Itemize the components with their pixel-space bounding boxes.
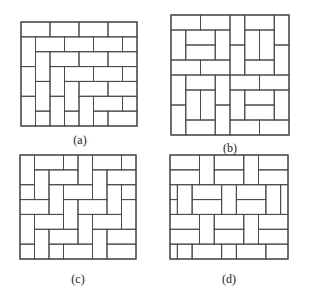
brick [20, 155, 35, 185]
brick [170, 155, 200, 170]
brick [78, 214, 93, 244]
brick [245, 105, 275, 120]
brick [108, 22, 137, 37]
brick [36, 52, 51, 82]
brick [170, 200, 177, 215]
brick [79, 52, 108, 67]
brick [245, 15, 275, 30]
panel-border [170, 155, 288, 259]
brick [93, 214, 122, 229]
brick [49, 185, 64, 215]
brick [21, 22, 50, 37]
brick [49, 170, 78, 185]
brick [94, 67, 123, 82]
brick [36, 111, 51, 126]
brick [93, 229, 108, 259]
brick [236, 200, 266, 215]
brick [122, 155, 137, 170]
panel-label-c: (c) [58, 272, 98, 287]
brick [20, 200, 49, 215]
brick [108, 81, 137, 96]
brick [79, 22, 108, 37]
brick [274, 90, 289, 120]
brick [122, 185, 137, 200]
brick [260, 120, 290, 135]
brick [186, 30, 216, 45]
panel-label-a: (a) [60, 133, 100, 148]
brick [171, 105, 186, 135]
brick [35, 170, 50, 200]
brick [214, 214, 244, 229]
brick [192, 185, 222, 200]
brick [281, 185, 288, 215]
brick [93, 170, 108, 200]
brick [123, 67, 138, 82]
brick [274, 15, 289, 45]
brick [49, 244, 64, 259]
brick [107, 185, 122, 215]
brick [107, 229, 136, 244]
brick [94, 111, 109, 126]
brick [108, 111, 137, 126]
brick [230, 90, 245, 120]
brick [222, 244, 237, 259]
brick [171, 75, 186, 105]
brick [230, 120, 260, 135]
brick [260, 75, 290, 90]
brick [170, 244, 177, 259]
brick [266, 244, 288, 259]
brick [244, 214, 259, 244]
panel-label-d: (d) [209, 272, 249, 287]
brick [214, 229, 244, 244]
brick [260, 30, 275, 60]
brick [214, 155, 244, 170]
brick [245, 60, 275, 75]
brick [244, 155, 259, 185]
brick [171, 15, 201, 30]
brick [21, 37, 36, 67]
brick [186, 45, 216, 60]
brick [79, 81, 108, 96]
brick-panel-c [20, 155, 136, 259]
brick [236, 185, 266, 200]
brick [79, 96, 94, 126]
brick [200, 155, 215, 185]
brick-panel-b [171, 15, 289, 135]
brick [36, 81, 51, 111]
brick [186, 90, 201, 120]
brick [266, 185, 281, 215]
brick [65, 67, 94, 82]
brick [215, 75, 230, 105]
brick [215, 30, 230, 60]
brick [122, 200, 137, 230]
brick [21, 67, 36, 97]
brick [65, 37, 94, 52]
brick [201, 15, 231, 30]
brick [50, 96, 65, 126]
brick [259, 155, 289, 170]
brick [78, 155, 93, 185]
brick [192, 244, 222, 259]
brick [35, 214, 64, 229]
brick [259, 214, 289, 229]
brick [94, 37, 123, 52]
brick [107, 170, 136, 185]
brick [186, 75, 216, 90]
brick [107, 244, 136, 259]
brick [236, 244, 266, 259]
brick [177, 244, 192, 259]
brick [170, 229, 200, 244]
brick [50, 52, 79, 67]
brick [78, 200, 107, 215]
brick [177, 185, 192, 215]
brick [65, 111, 80, 126]
brick [20, 244, 35, 259]
brick [170, 214, 200, 229]
brick [214, 170, 244, 185]
brick [192, 200, 222, 215]
brick [230, 45, 245, 75]
brick [50, 67, 65, 97]
brick [93, 155, 122, 170]
brick [274, 45, 289, 75]
brick [186, 120, 216, 135]
